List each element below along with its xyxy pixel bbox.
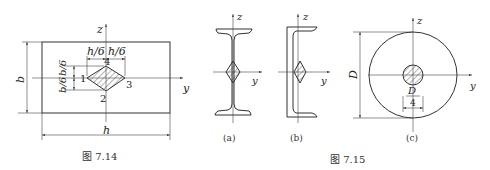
dim-h-label: h: [103, 124, 110, 137]
sub-label-b: (b): [290, 133, 303, 143]
z-axis-c-label: z: [416, 15, 423, 26]
figure-7-15c: z y D D 4 (c): [347, 15, 476, 143]
caption-7-14: 图 7.14: [82, 151, 117, 162]
diagram-canvas: z y 1 2 3 4 h/6 h/6 b/6 b/6 b h 图 7.: [0, 0, 490, 170]
dim-D4-denominator: 4: [410, 98, 416, 108]
z-axis-b-label: z: [302, 11, 309, 22]
caption-7-15: 图 7.15: [330, 154, 365, 165]
dim-D-label: D: [347, 70, 360, 80]
y-axis-a-label: y: [251, 75, 258, 86]
point-3-label: 3: [126, 79, 132, 90]
point-2-label: 2: [100, 93, 106, 104]
figure-7-14: z y 1 2 3 4 h/6 h/6 b/6 b/6 b h 图 7.: [14, 23, 190, 162]
kern-diamond-a: [226, 61, 240, 83]
dim-h6-left-label: h/6: [87, 45, 105, 58]
z-axis-a-label: z: [236, 11, 243, 22]
z-axis-label: z: [96, 23, 103, 36]
dim-D4-numerator: D: [407, 85, 416, 96]
kern-circle: [403, 65, 423, 85]
kern-diamond-b: [294, 61, 306, 83]
sub-label-c: (c): [406, 133, 418, 143]
dim-b6-bottom-label: b/6: [57, 76, 68, 93]
y-axis-c-label: y: [469, 80, 476, 91]
sub-label-a: (a): [223, 133, 235, 143]
figure-7-15b: z y (b): [278, 11, 330, 143]
figure-7-15a: z y (a): [213, 11, 262, 143]
dim-b-label: b: [14, 76, 27, 83]
y-axis-b-label: y: [320, 75, 327, 86]
dim-h6-right-label: h/6: [108, 45, 126, 58]
dim-b6-top-label: b/6: [57, 59, 68, 76]
kern-diamond: [87, 66, 125, 91]
y-axis-label: y: [182, 82, 190, 95]
point-1-label: 1: [80, 73, 86, 84]
